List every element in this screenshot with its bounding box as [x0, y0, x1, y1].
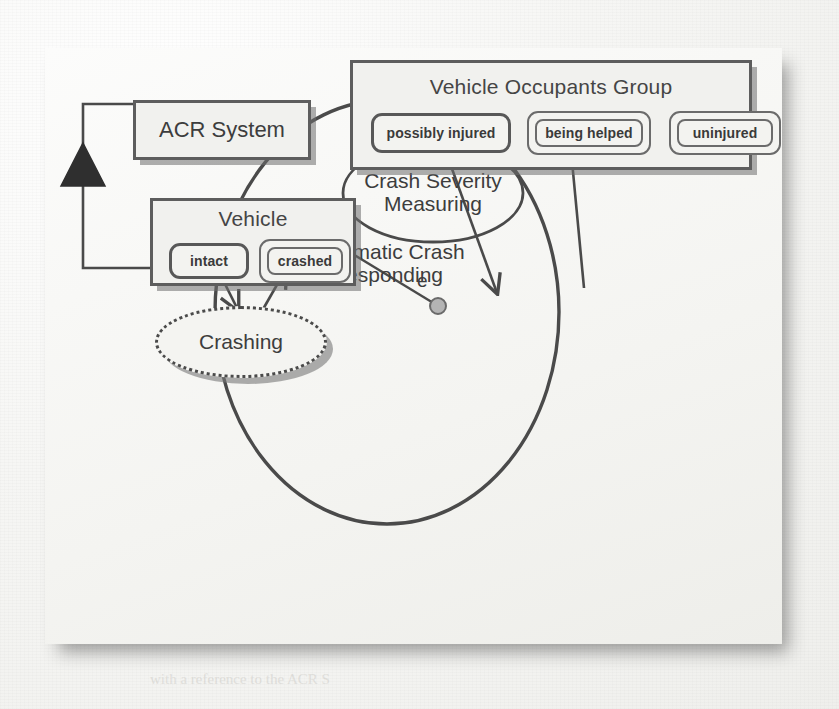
occupant-state-being-helped-inner: being helped: [535, 119, 643, 147]
vehicle-state-crashed[interactable]: crashed: [259, 239, 351, 283]
vehicle-state-crashed-inner: crashed: [267, 247, 343, 275]
occupant-state-uninjured-inner: uninjured: [677, 119, 773, 147]
crashing-label: Crashing: [199, 330, 283, 354]
vehicle-box[interactable]: Vehicle intact crashed: [150, 198, 356, 286]
occupant-state-possibly-injured-label: possibly injured: [387, 125, 496, 141]
acr-system-label: ACR System: [136, 117, 308, 143]
vehicle-state-intact-label: intact: [190, 253, 228, 269]
diagram-panel: Automatic Crash Responding Crash Severit…: [45, 48, 782, 644]
crashing-ellipse[interactable]: Crashing: [155, 306, 327, 378]
occupant-state-uninjured-label: uninjured: [693, 125, 758, 141]
occupant-state-possibly-injured[interactable]: possibly injured: [371, 113, 511, 153]
acr-system-box[interactable]: ACR System: [133, 100, 311, 160]
vehicle-state-crashed-label: crashed: [278, 253, 332, 269]
occupant-state-being-helped-label: being helped: [545, 125, 633, 141]
occupant-state-uninjured[interactable]: uninjured: [669, 111, 781, 155]
event-port-label: e: [417, 270, 428, 292]
crash-severity-measuring-label: Crash Severity Measuring: [343, 170, 523, 215]
vehicle-occupants-group-title: Vehicle Occupants Group: [353, 75, 749, 99]
vehicle-occupants-group-box[interactable]: Vehicle Occupants Group possibly injured…: [350, 60, 752, 170]
vehicle-title: Vehicle: [153, 207, 353, 231]
vehicle-state-intact[interactable]: intact: [169, 243, 249, 279]
event-port-circle: [430, 298, 446, 314]
occupant-state-being-helped[interactable]: being helped: [527, 111, 651, 155]
filled-triangle-icon: [61, 143, 105, 186]
